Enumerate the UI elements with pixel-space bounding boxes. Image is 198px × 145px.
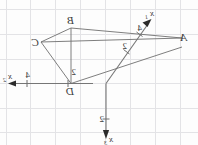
tick-label-x1-near: 2 [123, 41, 128, 51]
figure-canvas: A B C D x 1 x 2 x 3 4 2 [0, 0, 198, 145]
tick-label-x2-far: 4 [25, 70, 30, 80]
vertex-label-b: B [67, 14, 74, 26]
tick-label-x3-near: 2 [100, 114, 105, 124]
vertex-label-a: A [180, 31, 188, 43]
tick-label-x1-far: 4 [137, 23, 142, 33]
diagram-labels: A B C D x 1 x 2 x 3 4 2 [3, 8, 188, 145]
axis-label-x2-sub: 2 [3, 77, 6, 83]
axis-label-x1-base: x [150, 8, 155, 18]
diagram-svg: A B C D x 1 x 2 x 3 4 2 [0, 0, 198, 145]
axis-label-x3-base: x [109, 134, 114, 144]
axis-x3 [103, 84, 110, 140]
axis-label-x2-base: x [8, 71, 13, 81]
tick-label-x2-near: 2 [72, 67, 77, 77]
vertex-label-d: D [66, 85, 75, 97]
axis-label-x1-sub: 1 [145, 14, 148, 20]
vertex-label-c: C [31, 36, 39, 48]
axis-x1 [106, 19, 152, 84]
axis-label-x3-sub: 3 [104, 140, 108, 145]
